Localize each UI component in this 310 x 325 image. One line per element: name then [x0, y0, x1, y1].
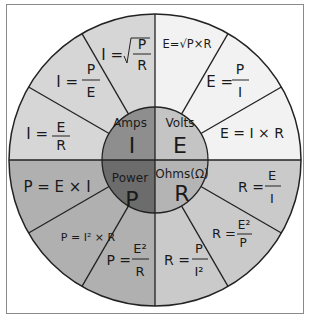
svg-text:P: P [87, 61, 95, 77]
formula-e-sqrt-p-times-r: E=√P×R [163, 37, 212, 51]
svg-text:E: E [268, 168, 276, 183]
ohms-law-wheel: Amps I Volts E Power P Ohms(Ω) R I = E R… [0, 0, 310, 325]
ohms-symbol: R [174, 181, 189, 206]
svg-text:I²: I² [194, 264, 203, 279]
volts-label: Volts [166, 116, 195, 130]
svg-text:I: I [238, 84, 242, 100]
svg-text:P: P [236, 61, 244, 77]
svg-text:P: P [195, 241, 203, 256]
svg-text:R: R [137, 57, 147, 73]
amps-label: Amps [113, 116, 147, 130]
svg-text:R =: R = [164, 252, 190, 268]
formula-p-e-times-i: P = E × I [23, 178, 90, 196]
svg-text:I =: I = [101, 46, 123, 64]
svg-text:E: E [57, 119, 66, 135]
power-label: Power [112, 171, 148, 185]
formula-p-i2-times-r: P = I² × R [61, 231, 116, 244]
svg-text:E²: E² [238, 218, 251, 232]
svg-text:P: P [239, 236, 246, 250]
svg-text:I =: I = [56, 73, 78, 91]
svg-text:I: I [270, 191, 274, 206]
svg-text:I =: I = [26, 125, 48, 143]
ohms-label: Ohms(Ω) [155, 167, 209, 181]
svg-text:E: E [87, 84, 96, 100]
volts-symbol: E [173, 133, 187, 158]
amps-symbol: I [129, 133, 136, 158]
formula-e-i-times-r: E = I × R [220, 125, 284, 141]
svg-text:E =: E = [206, 73, 233, 91]
svg-text:P: P [138, 36, 146, 52]
svg-text:R: R [56, 137, 66, 153]
svg-text:E²: E² [133, 241, 146, 256]
svg-text:P =: P = [106, 252, 131, 268]
power-symbol: P [125, 187, 138, 212]
svg-text:R: R [135, 264, 144, 279]
svg-text:R =: R = [212, 226, 236, 241]
svg-text:R =: R = [238, 179, 264, 195]
